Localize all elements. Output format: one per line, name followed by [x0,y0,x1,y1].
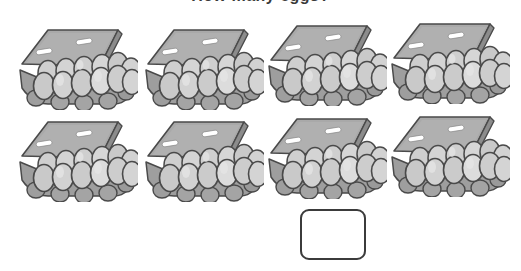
egg-carton-icon [140,18,264,110]
worksheet-canvas: How many eggs? [0,0,521,271]
egg-carton [14,18,138,110]
egg-carton-icon [386,12,510,104]
egg-carton-icon [263,14,387,106]
egg-carton-icon [386,105,510,197]
egg-carton-icon [14,110,138,202]
page-title: How many eggs? [0,0,521,5]
egg-carton [14,110,138,202]
egg-carton [386,105,510,197]
egg-carton [386,12,510,104]
egg-carton [140,110,264,202]
egg-carton-icon [263,107,387,199]
egg-carton [263,14,387,106]
egg-carton [263,107,387,199]
egg-carton-icon [14,18,138,110]
egg-carton [140,18,264,110]
egg-carton-icon [140,110,264,202]
answer-box[interactable] [300,209,366,260]
